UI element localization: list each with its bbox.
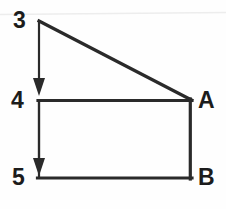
hypotenuse-segment	[39, 21, 192, 100]
dimension-arrowhead-upper	[33, 78, 45, 96]
label-point-b: B	[198, 166, 215, 189]
label-4: 4	[11, 89, 24, 112]
label-3: 3	[13, 9, 26, 32]
scan-artifact-line	[0, 13, 226, 15]
geometry-figure	[0, 0, 226, 209]
dimension-arrowhead-lower	[33, 158, 45, 176]
diagram-canvas: 3 4 5 A B	[0, 0, 226, 209]
label-point-a: A	[198, 89, 215, 112]
label-5: 5	[12, 166, 25, 189]
